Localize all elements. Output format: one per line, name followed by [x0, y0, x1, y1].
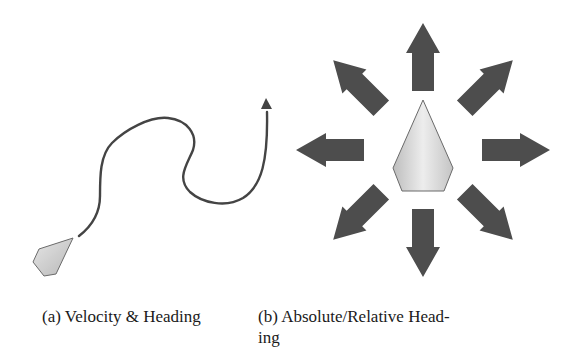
agent-kite-a [33, 238, 73, 276]
figure-canvas [0, 0, 585, 358]
arrow-down-left-icon [321, 180, 393, 252]
arrow-up-icon [406, 23, 440, 91]
trajectory-arrowhead-icon [261, 98, 272, 109]
subfigure-a [33, 98, 272, 276]
arrow-down-icon [406, 209, 440, 277]
caption-a-text: (a) Velocity & Heading [42, 307, 201, 326]
agent-kite-b [393, 100, 453, 191]
arrow-up-left-icon [321, 48, 393, 120]
caption-b-line2: ing [258, 327, 518, 348]
arrow-up-right-icon [453, 48, 525, 120]
trajectory-curve [79, 112, 267, 236]
caption-a: (a) Velocity & Heading [42, 306, 201, 327]
arrow-left-icon [296, 133, 364, 167]
arrow-right-icon [482, 133, 550, 167]
caption-b-line1: (b) Absolute/Relative Head- [258, 306, 518, 327]
arrow-down-right-icon [453, 180, 525, 252]
subfigure-b [296, 23, 550, 277]
caption-b: (b) Absolute/Relative Head- ing [258, 306, 518, 348]
